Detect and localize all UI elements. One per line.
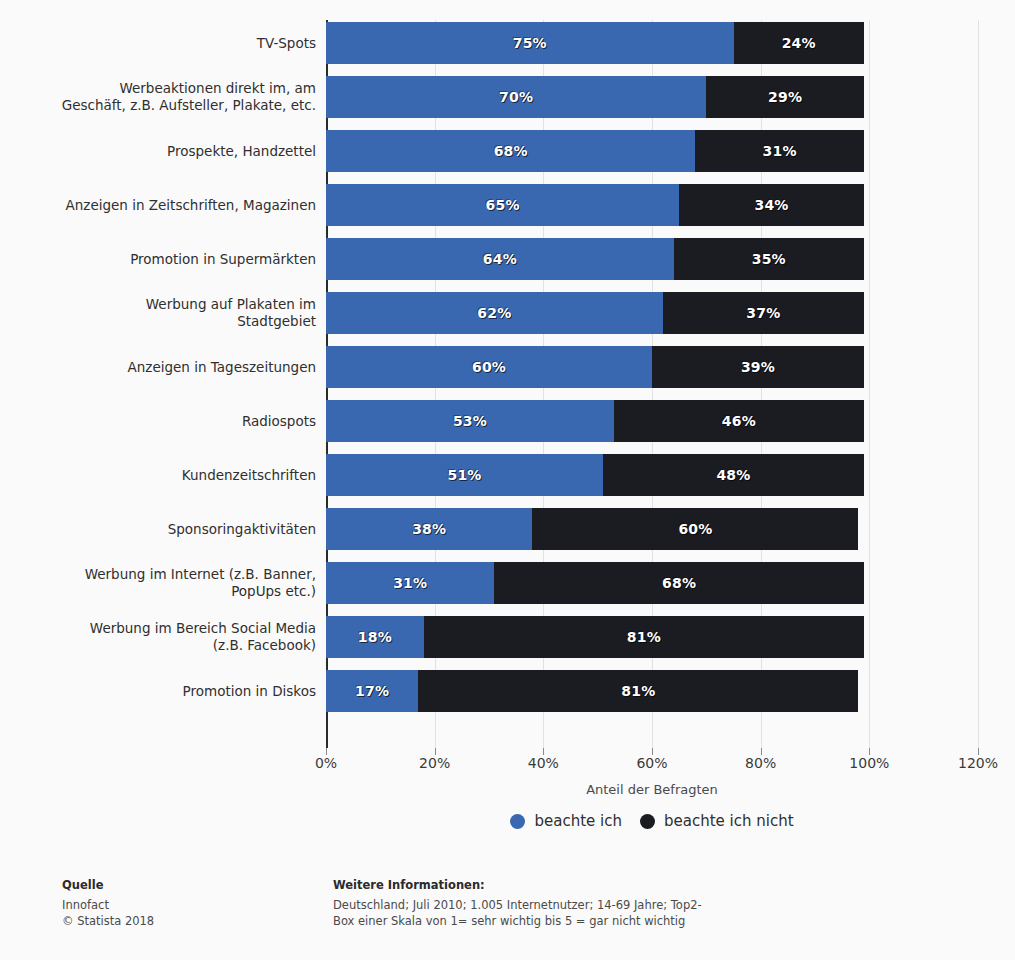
x-tick-label: 20% (419, 755, 450, 771)
bar-segment-beachte-ich: 68% (326, 130, 695, 172)
x-tick-label: 40% (528, 755, 559, 771)
bar-value-label: 17% (355, 683, 389, 699)
bar-segment-beachte-ich: 53% (326, 400, 614, 442)
bar-value-label: 39% (741, 359, 775, 375)
bar-value-label: 64% (483, 251, 517, 267)
bar-segment-beachte-ich-nicht: 35% (674, 238, 864, 280)
source-block: Quelle Innofact © Statista 2018 (62, 878, 154, 929)
bar-value-label: 34% (754, 197, 788, 213)
bar-segment-beachte-ich-nicht: 29% (706, 76, 864, 118)
category-label: Promotion in Supermärkten (16, 251, 316, 268)
bar-value-label: 37% (746, 305, 780, 321)
chart-area: TV-Spots75%24%Werbeaktionen direkt im, a… (0, 0, 1015, 800)
bar-value-label: 46% (722, 413, 756, 429)
source-name: Innofact (62, 897, 154, 913)
category-label: Kundenzeitschriften (16, 467, 316, 484)
bar-segment-beachte-ich-nicht: 48% (603, 454, 864, 496)
notes-block: Weitere Informationen: Deutschland; Juli… (333, 878, 702, 929)
bar-segment-beachte-ich: 62% (326, 292, 663, 334)
legend-label: beachte ich (534, 812, 622, 830)
bar-segment-beachte-ich-nicht: 46% (614, 400, 864, 442)
bar-segment-beachte-ich-nicht: 68% (494, 562, 863, 604)
bar-segment-beachte-ich: 18% (326, 616, 424, 658)
bar-segment-beachte-ich: 38% (326, 508, 532, 550)
x-tick-mark (435, 748, 436, 755)
bar-row: Sponsoringaktivitäten38%60% (0, 508, 1015, 550)
category-label: Sponsoringaktivitäten (16, 521, 316, 538)
bar-row: Promotion in Supermärkten64%35% (0, 238, 1015, 280)
bar-value-label: 60% (678, 521, 712, 537)
bar-row: Werbung im Bereich Social Media (z.B. Fa… (0, 616, 1015, 658)
bar-value-label: 60% (472, 359, 506, 375)
bar-segment-beachte-ich-nicht: 37% (663, 292, 864, 334)
bar-value-label: 35% (752, 251, 786, 267)
x-tick-label: 80% (745, 755, 776, 771)
bar-segment-beachte-ich: 51% (326, 454, 603, 496)
bar-segment-beachte-ich-nicht: 31% (695, 130, 863, 172)
source-heading: Quelle (62, 878, 154, 892)
bar-segment-beachte-ich-nicht: 24% (734, 22, 864, 64)
bar-segment-beachte-ich-nicht: 60% (532, 508, 858, 550)
bar-row: TV-Spots75%24% (0, 22, 1015, 64)
bar-row: Werbung im Internet (z.B. Banner, PopUps… (0, 562, 1015, 604)
x-tick-label: 60% (636, 755, 667, 771)
bar-segment-beachte-ich: 65% (326, 184, 679, 226)
bar-value-label: 75% (513, 35, 547, 51)
bar-segment-beachte-ich: 64% (326, 238, 674, 280)
category-label: Werbung auf Plakaten im Stadtgebiet (16, 296, 316, 330)
bar-value-label: 70% (499, 89, 533, 105)
category-label: Anzeigen in Tageszeitungen (16, 359, 316, 376)
bar-value-label: 51% (447, 467, 481, 483)
bar-value-label: 18% (358, 629, 392, 645)
x-tick-mark (543, 748, 544, 755)
notes-line-1: Deutschland; Juli 2010; 1.005 Internetnu… (333, 897, 702, 913)
bar-row: Werbeaktionen direkt im, am Geschäft, z.… (0, 76, 1015, 118)
bar-row: Radiospots53%46% (0, 400, 1015, 442)
legend-item[interactable]: beachte ich nicht (640, 812, 794, 830)
bar-value-label: 68% (494, 143, 528, 159)
category-label: Werbung im Internet (z.B. Banner, PopUps… (16, 566, 316, 600)
category-label: Prospekte, Handzettel (16, 143, 316, 160)
chart-footer: Quelle Innofact © Statista 2018 Weitere … (0, 878, 1015, 960)
x-tick-label: 120% (958, 755, 998, 771)
bar-segment-beachte-ich: 70% (326, 76, 706, 118)
chart-legend: beachte ichbeachte ich nicht (326, 812, 978, 830)
x-tick-label: 0% (315, 755, 337, 771)
bar-segment-beachte-ich: 17% (326, 670, 418, 712)
bar-segment-beachte-ich: 31% (326, 562, 494, 604)
bar-row: Anzeigen in Tageszeitungen60%39% (0, 346, 1015, 388)
category-label: Werbung im Bereich Social Media (z.B. Fa… (16, 620, 316, 654)
legend-swatch-icon (640, 814, 655, 829)
category-label: TV-Spots (16, 35, 316, 52)
bar-value-label: 38% (412, 521, 446, 537)
bar-segment-beachte-ich-nicht: 39% (652, 346, 864, 388)
bar-segment-beachte-ich-nicht: 81% (418, 670, 858, 712)
bar-value-label: 29% (768, 89, 802, 105)
bar-value-label: 65% (486, 197, 520, 213)
x-axis-title: Anteil der Befragten (326, 782, 978, 797)
bar-value-label: 24% (782, 35, 816, 51)
legend-item[interactable]: beachte ich (510, 812, 622, 830)
x-tick-mark (869, 748, 870, 755)
category-label: Anzeigen in Zeitschriften, Magazinen (16, 197, 316, 214)
notes-heading: Weitere Informationen: (333, 878, 702, 892)
bar-value-label: 31% (393, 575, 427, 591)
bar-segment-beachte-ich: 60% (326, 346, 652, 388)
source-copyright: © Statista 2018 (62, 913, 154, 929)
bar-value-label: 68% (662, 575, 696, 591)
x-tick-mark (652, 748, 653, 755)
bar-row: Werbung auf Plakaten im Stadtgebiet62%37… (0, 292, 1015, 334)
notes-line-2: Box einer Skala von 1= sehr wichtig bis … (333, 913, 702, 929)
legend-swatch-icon (510, 814, 525, 829)
bar-row: Kundenzeitschriften51%48% (0, 454, 1015, 496)
category-label: Werbeaktionen direkt im, am Geschäft, z.… (16, 80, 316, 114)
bar-segment-beachte-ich: 75% (326, 22, 734, 64)
legend-label: beachte ich nicht (664, 812, 794, 830)
bar-value-label: 53% (453, 413, 487, 429)
bar-value-label: 81% (627, 629, 661, 645)
bar-row: Anzeigen in Zeitschriften, Magazinen65%3… (0, 184, 1015, 226)
x-tick-mark (761, 748, 762, 755)
category-label: Radiospots (16, 413, 316, 430)
bar-segment-beachte-ich-nicht: 81% (424, 616, 864, 658)
x-tick-mark (326, 748, 327, 755)
